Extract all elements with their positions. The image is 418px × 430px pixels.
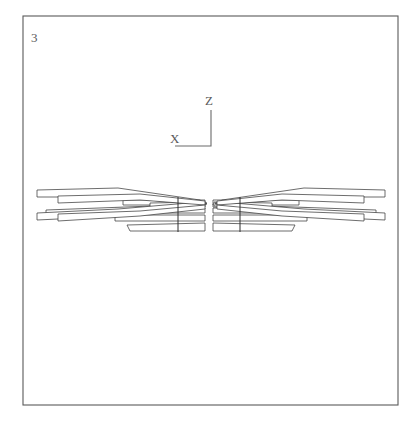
bar-left-4 xyxy=(127,223,205,231)
axis-triad-lines xyxy=(175,110,211,146)
bar-right-4 xyxy=(213,223,295,231)
view-number-label: 3 xyxy=(31,30,38,45)
cad-viewport: 3 Z X xyxy=(0,0,418,430)
axis-z-label: Z xyxy=(205,93,213,108)
rotor-blades xyxy=(37,188,385,221)
axis-triad: Z X xyxy=(170,93,213,146)
rotor-assembly xyxy=(37,188,385,232)
cad-drawing-canvas: 3 Z X xyxy=(0,0,418,430)
axis-x-label: X xyxy=(170,131,180,146)
